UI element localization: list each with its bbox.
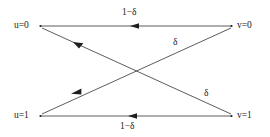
edge-label-bottom-transition: 1−δ — [120, 122, 135, 132]
node-label-output-bottom: v=1 — [237, 111, 252, 121]
node-dot-output-bottom — [230, 115, 232, 117]
edge-cross-upper-arrowhead — [73, 42, 83, 48]
edge-label-cross-upper-transition: δ — [173, 38, 177, 48]
node-label-output-top: v=0 — [237, 21, 252, 31]
edge-top-horizontal-arrowhead — [130, 23, 139, 29]
node-label-input-bottom: u=1 — [14, 111, 29, 121]
edge-label-top-transition: 1−δ — [122, 8, 137, 18]
edge-label-cross-lower-transition: δ — [204, 89, 208, 99]
edge-top-horizontal — [41, 23, 231, 29]
edge-bottom-horizontal — [41, 113, 231, 119]
node-dot-input-top — [39, 25, 41, 27]
channel-diagram: u=0 u=1 v=0 v=1 1−δ 1−δ δ δ — [0, 0, 270, 137]
node-dot-output-top — [230, 25, 232, 27]
edge-cross-lower-arrowhead — [71, 89, 81, 95]
edge-bottom-horizontal-arrowhead — [128, 113, 137, 119]
node-label-input-top: u=0 — [14, 21, 29, 31]
channel-diagram-canvas — [0, 0, 270, 137]
node-dot-input-bottom — [39, 115, 41, 117]
